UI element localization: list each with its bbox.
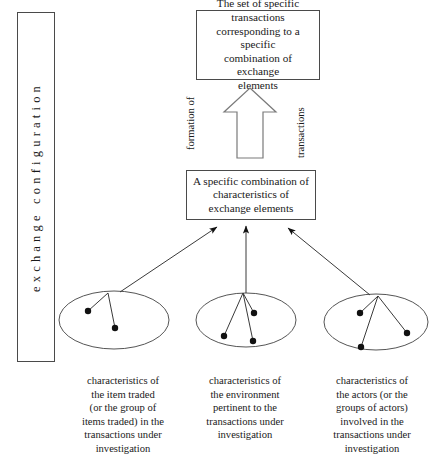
caption-left-line-5: transactions under [58,428,188,442]
connector-actors-to-middle [288,228,370,295]
caption-middle-line-2: the environment [186,388,304,402]
environment-dot-2 [250,338,256,344]
actors-spoke-3 [378,296,407,333]
environment-spoke-1 [224,293,243,336]
caption-middle-line-3: pertinent to the [186,401,304,415]
items-traded-ellipse [59,291,169,349]
items-traded-spoke-2 [108,293,115,328]
environment-dot-1 [221,333,227,339]
caption-left-line-4: items traded) in the [58,415,188,429]
caption-right-line-5: transactions under [308,428,436,442]
caption-middle-line-5: investigation [186,428,304,442]
caption-right-line-4: involved in the [308,415,436,429]
caption-middle-line-1: characteristics of [186,374,304,388]
diagram-canvas: exchange configuration The set of specif… [0,0,442,464]
caption-left-line-2: the item traded [58,388,188,402]
actors-dot-1 [357,310,363,316]
caption-environment: characteristics of the environment perti… [186,374,304,442]
caption-left-line-6: investigation [58,442,188,456]
caption-left-line-3: (or the group of [58,401,188,415]
items-traded-dot-2 [112,325,118,331]
caption-left-line-1: characteristics of [58,374,188,388]
caption-actors: characteristics of the actors (or the gr… [308,374,436,455]
connector-items-to-middle [120,227,217,292]
environment-ellipse [196,293,296,347]
caption-items-traded: characteristics of the item traded (or t… [58,374,188,455]
actors-dot-3 [404,330,410,336]
caption-middle-line-4: transactions under [186,415,304,429]
environment-dot-3 [251,310,257,316]
caption-right-line-6: investigation [308,442,436,456]
items-traded-dot-1 [85,308,91,314]
items-traded-spoke-1 [88,293,108,311]
actors-dot-2 [358,344,364,350]
formation-block-arrow [224,88,276,158]
caption-right-line-2: the actors (or the [308,388,436,402]
environment-spoke-2 [243,293,253,341]
caption-right-line-1: characteristics of [308,374,436,388]
caption-right-line-3: groups of actors) [308,401,436,415]
